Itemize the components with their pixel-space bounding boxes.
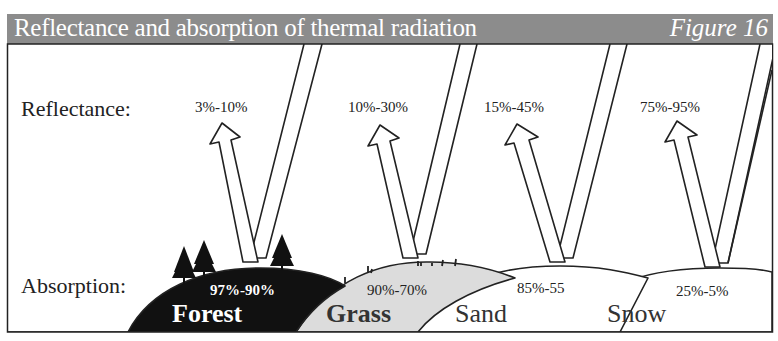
incoming-radiation-grass: [410, 44, 477, 254]
surface-name-sand: Sand: [455, 299, 507, 329]
reflectance-row-label: Reflectance:: [21, 96, 131, 122]
absorption-value-sand: 85%-55: [517, 280, 565, 297]
reflectance-value-grass: 10%-30%: [348, 99, 408, 116]
surface-name-snow: Snow: [607, 299, 666, 329]
reflected-arrow-sand: [505, 124, 565, 262]
absorption-row-label: Absorption:: [21, 273, 126, 299]
reflectance-value-sand: 15%-45%: [484, 99, 544, 116]
incoming-radiation-snow: [712, 44, 776, 263]
absorption-value-snow: 25%-5%: [676, 283, 729, 300]
incoming-radiation-sand: [557, 44, 627, 258]
incoming-radiation-forest: [250, 44, 322, 258]
reflectance-value-snow: 75%-95%: [640, 99, 700, 116]
absorption-value-grass: 90%-70%: [367, 282, 427, 299]
surface-name-forest: Forest: [172, 299, 242, 329]
reflectance-value-forest: 3%-10%: [195, 99, 248, 116]
tree-icon: [192, 240, 216, 276]
surface-name-grass: Grass: [326, 299, 391, 329]
reflected-arrow-forest: [210, 123, 258, 262]
reflected-arrow-grass: [368, 125, 418, 258]
tree-icon: [270, 234, 294, 270]
reflected-arrow-snow: [665, 121, 720, 267]
absorption-value-forest: 97%-90%: [210, 282, 275, 299]
